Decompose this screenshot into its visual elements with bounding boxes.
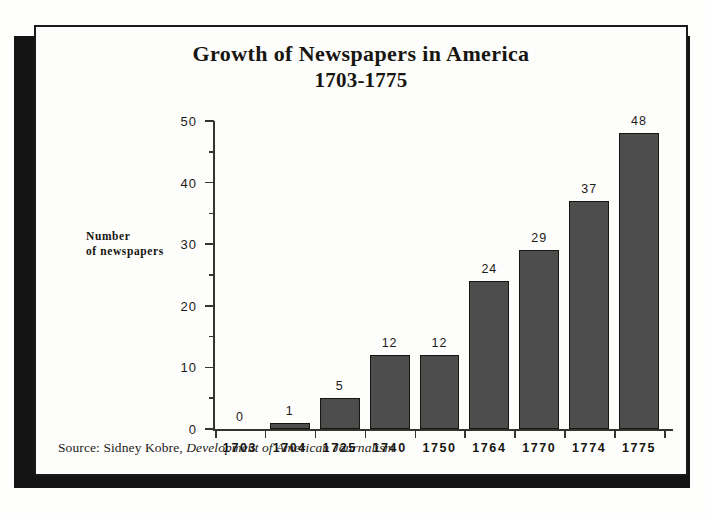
plot-area: 01020304050 015121224293748 170317041725… [179,117,675,431]
y-tick-label: 30 [169,237,197,252]
bar [370,355,410,429]
y-tick-minor [209,151,214,153]
bar-value-label: 12 [382,336,398,350]
y-tick-major [205,428,214,430]
source-book-title: Development of American Journalism [186,440,394,455]
y-tick-major [205,182,214,184]
y-tick-minor [209,336,214,338]
source-note: Source: Sidney Kobre, Development of Ame… [58,440,394,456]
x-tick [365,431,367,438]
x-tick [464,431,466,438]
x-tick [215,431,217,438]
chart-title-block: Growth of Newspapers in America 1703-177… [36,41,686,93]
y-tick-label: 40 [169,175,197,190]
chart-page: Growth of Newspapers in America 1703-177… [0,0,709,514]
y-tick-major [205,367,214,369]
chart-frame: Growth of Newspapers in America 1703-177… [34,25,688,476]
y-tick-label: 0 [169,422,197,437]
y-tick-minor [209,213,214,215]
x-tick [664,431,666,438]
bar-value-label: 5 [336,379,344,393]
bar-value-label: 48 [631,114,647,128]
bar-value-label: 12 [432,336,448,350]
bar [619,133,659,429]
y-axis-line [213,121,215,431]
source-prefix: Source: Sidney Kobre, [58,440,186,455]
bar-value-label: 0 [236,410,244,424]
x-category-label: 1775 [622,441,656,455]
y-tick-major [205,305,214,307]
x-category-label: 1750 [422,441,456,455]
chart-title-line-2: 1703-1775 [36,67,686,93]
bar [469,281,509,429]
x-tick [415,431,417,438]
x-axis-line [213,429,673,431]
bar-value-label: 29 [531,231,547,245]
y-tick-major [205,243,214,245]
x-tick [564,431,566,438]
bar-value-label: 37 [581,182,597,196]
bar [270,423,310,429]
x-category-label: 1774 [572,441,606,455]
x-category-label: 1764 [472,441,506,455]
x-tick [315,431,317,438]
y-tick-label: 10 [169,360,197,375]
x-tick [514,431,516,438]
y-tick-major [205,120,214,122]
y-tick-minor [209,274,214,276]
chart-title-line-1: Growth of Newspapers in America [36,41,686,67]
y-tick-minor [209,397,214,399]
bar [420,355,460,429]
bar [519,250,559,429]
bar-value-label: 24 [481,262,497,276]
y-tick-label: 20 [169,298,197,313]
y-tick-label: 50 [169,114,197,129]
bar [569,201,609,429]
x-tick [265,431,267,438]
bar-value-label: 1 [286,404,294,418]
bar [320,398,360,429]
x-category-label: 1770 [522,441,556,455]
x-tick [614,431,616,438]
